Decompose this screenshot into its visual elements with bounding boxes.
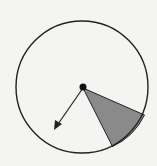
center-pivot — [80, 84, 87, 91]
shaded-sector — [83, 88, 145, 147]
pointer-shaft — [56, 88, 83, 127]
spinner-diagram — [0, 0, 157, 166]
pointer-arrowhead-icon — [54, 120, 62, 130]
